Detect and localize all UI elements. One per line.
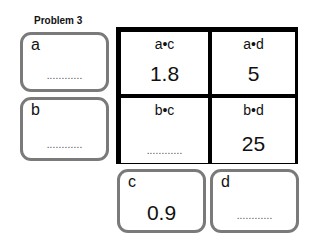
cell-ad-header: a•d <box>212 36 295 52</box>
factor-c-box[interactable]: c 0.9 <box>117 169 206 233</box>
factor-a-label: a <box>31 36 40 54</box>
cell-bc: b•c ............ <box>121 98 208 163</box>
cell-bc-header: b•c <box>121 102 208 118</box>
cell-ac: a•c 1.8 <box>121 32 208 94</box>
factor-b-box[interactable]: b ............ <box>20 97 109 161</box>
problem-title: Problem 3 <box>34 15 82 26</box>
cell-ac-header: a•c <box>121 36 208 52</box>
cell-ad-value: 5 <box>212 62 295 86</box>
cell-ad: a•d 5 <box>212 32 295 94</box>
factor-d-label: d <box>221 173 230 191</box>
factor-d-box[interactable]: d ............ <box>210 169 299 233</box>
cell-bc-blank[interactable]: ............ <box>121 147 208 155</box>
cell-bd: b•d 25 <box>212 98 295 163</box>
cell-bd-header: b•d <box>212 102 295 118</box>
factor-b-label: b <box>31 101 40 119</box>
factor-d-blank[interactable]: ............ <box>213 212 296 220</box>
factor-c-label: c <box>128 173 136 191</box>
cell-ac-value: 1.8 <box>121 62 208 86</box>
factor-c-value: 0.9 <box>120 201 203 225</box>
factor-a-box[interactable]: a ............ <box>20 32 109 92</box>
factor-a-blank[interactable]: ............ <box>23 72 106 80</box>
area-model-grid: a•c 1.8 a•d 5 b•c ............ b•d 25 <box>116 27 298 164</box>
cell-bd-value: 25 <box>212 132 295 156</box>
factor-b-blank[interactable]: ............ <box>23 141 106 149</box>
